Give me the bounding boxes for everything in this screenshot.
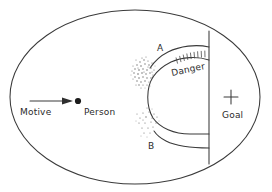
region-a-label: A <box>157 43 164 53</box>
filled-dot-icon <box>75 98 81 104</box>
plus-cross-icon <box>224 90 238 104</box>
person-label: Person <box>84 107 115 117</box>
goal-label: Goal <box>222 110 243 120</box>
danger-label: Danger <box>170 61 206 78</box>
inner-bowl-arc-icon <box>148 77 209 134</box>
ellipse-boundary-icon <box>10 10 260 184</box>
field-theory-diagram: Motive Person Goal Danger A B <box>0 0 272 192</box>
motive-label: Motive <box>20 107 52 117</box>
region-b-label: B <box>148 141 154 151</box>
right-arrow-head-icon <box>62 98 73 105</box>
diagram-canvas: Motive Person Goal Danger A B <box>0 0 272 192</box>
dense-stipple-cloud-icon <box>131 57 156 89</box>
